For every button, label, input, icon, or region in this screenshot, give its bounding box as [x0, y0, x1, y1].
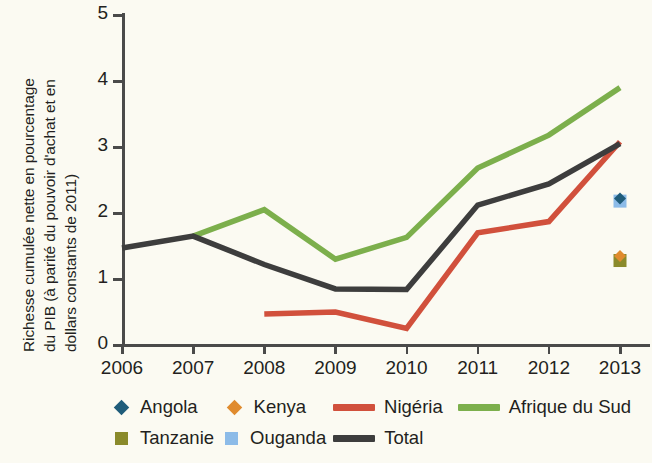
- series-line-afrique-du-sud: [193, 88, 620, 260]
- legend-row-2: TanzanieOugandaTotal: [110, 423, 423, 453]
- legend-label: Tanzanie: [140, 427, 214, 449]
- legend-row-1: AngolaKenyaNigériaAfrique du Sud: [110, 392, 631, 422]
- legend-line-icon: [333, 404, 375, 411]
- legend-label: Kenya: [254, 396, 306, 418]
- legend-square-icon: [225, 432, 238, 445]
- legend-item-nigeria[interactable]: Nigéria: [332, 392, 443, 422]
- legend-label: Total: [384, 427, 423, 449]
- legend: AngolaKenyaNigériaAfrique du Sud Tanzani…: [110, 392, 650, 458]
- legend-line-icon: [458, 404, 500, 411]
- legend-label: Nigéria: [384, 396, 443, 418]
- legend-label: Angola: [140, 396, 198, 418]
- legend-diamond-icon: [113, 399, 129, 415]
- series-line-nig-ria: [264, 142, 620, 329]
- series-line-total: [122, 144, 620, 290]
- legend-label: Ouganda: [250, 427, 326, 449]
- legend-item-kenya[interactable]: Kenya: [224, 392, 306, 422]
- legend-square-icon: [115, 432, 128, 445]
- legend-item-ouganda[interactable]: Ouganda: [220, 423, 326, 453]
- legend-label: Afrique du Sud: [509, 396, 631, 418]
- legend-diamond-icon: [227, 399, 243, 415]
- legend-line-icon: [333, 435, 375, 442]
- legend-item-tanzanie[interactable]: Tanzanie: [110, 423, 214, 453]
- legend-item-total[interactable]: Total: [332, 423, 423, 453]
- legend-item-angola[interactable]: Angola: [110, 392, 198, 422]
- chart-figure: Richesse cumulée nette en pourcentage du…: [0, 0, 652, 463]
- legend-item-afrique-du-sud[interactable]: Afrique du Sud: [457, 392, 631, 422]
